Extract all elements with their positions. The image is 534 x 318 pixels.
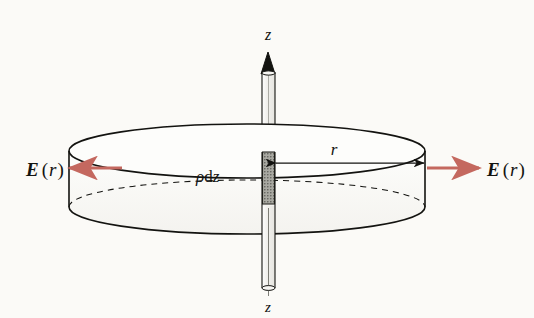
z-axis-group: z	[261, 26, 275, 74]
field-right-group: E(r)	[427, 159, 525, 181]
z-symbol: z	[212, 167, 220, 186]
field-open-paren-right: (	[503, 159, 509, 181]
charge-element-label: ρdz	[195, 167, 220, 186]
field-arg-left: r	[49, 159, 57, 180]
field-open-paren-left: (	[42, 159, 48, 181]
rho-symbol: ρ	[195, 167, 204, 186]
charge-element-label-group: ρdz	[195, 167, 220, 186]
z-axis-bottom-label: z	[264, 299, 271, 315]
charged-rod-lower: z	[262, 206, 275, 315]
rod-bottom-cap-ellipse	[262, 286, 275, 291]
field-vector-symbol-left: E	[25, 159, 39, 180]
field-close-paren-right: )	[518, 159, 524, 181]
field-vector-symbol-right: E	[486, 159, 500, 180]
field-close-paren-left: )	[57, 159, 63, 181]
field-arg-right: r	[510, 159, 518, 180]
rod-top-cap-ellipse	[262, 71, 275, 75]
charged-rod-inside-disc	[262, 152, 275, 206]
physics-diagram-gaussian-pillbox: z	[0, 0, 534, 318]
charge-element-shaded-box	[263, 152, 275, 204]
field-label-right: E(r)	[486, 159, 525, 181]
diagram-canvas: z	[0, 0, 534, 318]
gaussian-cylinder	[69, 124, 425, 234]
field-label-left: E(r)	[25, 159, 64, 181]
z-axis-top-label: z	[264, 26, 272, 43]
radius-label: r	[331, 140, 338, 159]
